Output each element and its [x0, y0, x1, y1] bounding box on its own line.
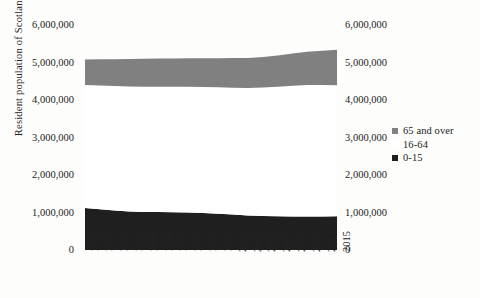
y-axis-title: Resident population of Scotland — [13, 0, 24, 166]
legend-item-label: 65 and over — [403, 124, 454, 138]
legend-item-label: 16-64 — [403, 138, 428, 152]
y-axis-tick-label-left: 2,000,000 — [32, 170, 74, 181]
x-axis-tick-label: 2011 — [312, 231, 323, 252]
y-axis-tick-label-right: 1,000,000 — [345, 208, 387, 219]
plot-svg — [85, 25, 337, 250]
stacked-area-chart: Resident population of Scotland 6,000,00… — [0, 0, 480, 298]
y-axis-tick-label-left: 1,000,000 — [32, 208, 74, 219]
chart-legend: 65 and over16-640-15 — [392, 124, 454, 165]
y-axis-tick-label-left: 0 — [69, 245, 74, 256]
y-axis-tick-label-left: 6,000,000 — [32, 20, 74, 31]
x-axis-tick-label: 1989 — [149, 231, 160, 252]
legend-item[interactable]: 16-64 — [392, 138, 454, 152]
x-axis-tick-label: 1997 — [208, 231, 219, 252]
legend-swatch-icon — [392, 128, 398, 134]
x-axis-tick-label: 2015 — [342, 231, 353, 252]
area-series-16-64 — [85, 85, 337, 217]
legend-item[interactable]: 0-15 — [392, 151, 454, 165]
y-axis-tick-label-right: 3,000,000 — [345, 133, 387, 144]
x-axis-tick-label: 2007 — [282, 231, 293, 252]
x-axis-tick-label: 2013 — [327, 231, 338, 252]
x-axis-tick-label: 2005 — [267, 231, 278, 252]
x-axis-tick-label: 2003 — [253, 231, 264, 252]
plot-area — [85, 25, 337, 250]
y-axis-tick-label-right: 4,000,000 — [345, 95, 387, 106]
x-axis-tick-label: 1981 — [90, 231, 101, 252]
x-axis-tick-label: 1987 — [134, 231, 145, 252]
x-axis-tick-label: 1985 — [119, 231, 130, 252]
legend-swatch-icon — [392, 155, 398, 161]
x-axis-tick-label: 1995 — [193, 231, 204, 252]
legend-swatch-icon — [392, 141, 398, 147]
y-axis-tick-label-right: 5,000,000 — [345, 58, 387, 69]
x-axis-tick-label: 1983 — [104, 231, 115, 252]
x-axis-tick-label: 1999 — [223, 231, 234, 252]
x-axis-labels: 1981198319851987198919911993199519971999… — [85, 252, 337, 298]
y-axis-tick-label-left: 5,000,000 — [32, 58, 74, 69]
y-axis-tick-label-left: 3,000,000 — [32, 133, 74, 144]
y-axis-tick-label-right: 6,000,000 — [345, 20, 387, 31]
y-axis-tick-label-left: 4,000,000 — [32, 95, 74, 106]
area-series-65-and-over — [85, 50, 337, 88]
x-axis-tick-label: 2009 — [297, 231, 308, 252]
x-axis-tick-label: 1993 — [178, 231, 189, 252]
x-axis-tick-label: 2001 — [238, 231, 249, 252]
x-axis-tick-label: 1991 — [164, 231, 175, 252]
y-axis-tick-label-right: 2,000,000 — [345, 170, 387, 181]
legend-item-label: 0-15 — [403, 151, 423, 165]
legend-item[interactable]: 65 and over — [392, 124, 454, 138]
